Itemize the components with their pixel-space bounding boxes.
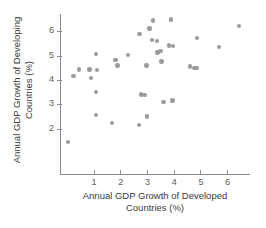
data-point	[194, 66, 198, 70]
data-point	[237, 24, 241, 28]
data-point	[158, 49, 162, 53]
data-point	[137, 32, 141, 36]
data-point	[155, 39, 159, 43]
data-point	[66, 140, 70, 144]
x-tick-mark	[227, 170, 228, 175]
y-tick-label: 3	[42, 98, 54, 108]
data-point	[77, 67, 81, 71]
data-point	[147, 26, 151, 30]
y-tick-label: 5	[42, 50, 54, 60]
x-tick-label: 3	[141, 177, 155, 187]
x-axis-title-line1: Annual GDP Growth of Developed	[48, 190, 262, 202]
data-point	[126, 53, 130, 57]
data-point	[195, 36, 199, 40]
data-point	[169, 17, 173, 21]
data-point	[110, 121, 114, 125]
y-axis-title-line2: Countries (%)	[23, 5, 35, 175]
x-tick-mark	[147, 170, 148, 175]
data-point	[144, 63, 148, 67]
data-point	[150, 38, 154, 42]
y-tick-mark	[57, 104, 62, 105]
x-tick-mark	[174, 170, 175, 175]
data-point	[170, 98, 174, 102]
y-axis-line	[60, 14, 61, 175]
y-tick-label: 6	[42, 25, 54, 35]
x-tick-label: 1	[87, 177, 101, 187]
data-point	[115, 63, 119, 67]
data-point	[94, 90, 98, 94]
y-axis-title-line1: Annual GDP Growth of Developing	[11, 5, 23, 175]
data-point	[171, 44, 175, 48]
x-tick-label: 5	[194, 177, 208, 187]
y-tick-mark	[57, 31, 62, 32]
y-tick-mark	[57, 56, 62, 57]
data-point	[71, 74, 75, 78]
data-point	[89, 76, 93, 80]
data-point	[217, 45, 221, 49]
x-tick-mark	[120, 170, 121, 175]
x-axis-line	[60, 174, 250, 175]
y-tick-label: 4	[42, 74, 54, 84]
x-axis-title: Annual GDP Growth of Developed Countries…	[48, 190, 262, 214]
x-tick-label: 4	[167, 177, 181, 187]
x-tick-mark	[94, 170, 95, 175]
y-tick-label: 2	[42, 123, 54, 133]
data-point	[137, 123, 141, 127]
data-point	[142, 93, 146, 97]
y-axis-title: Annual GDP Growth of Developing Countrie…	[11, 5, 35, 175]
y-tick-mark	[57, 80, 62, 81]
scatter-chart: 123456 23456 Annual GDP Growth of Develo…	[0, 0, 266, 228]
data-point	[161, 100, 165, 104]
x-tick-label: 2	[114, 177, 128, 187]
data-point	[94, 113, 98, 117]
x-axis-title-line2: Countries (%)	[48, 202, 262, 214]
data-point	[95, 68, 99, 72]
data-point	[151, 18, 155, 22]
x-tick-mark	[200, 170, 201, 175]
data-point	[145, 114, 149, 118]
data-point	[113, 58, 117, 62]
data-point	[159, 59, 163, 63]
data-point	[94, 52, 98, 56]
x-tick-label: 6	[221, 177, 235, 187]
data-point	[87, 67, 91, 71]
y-tick-mark	[57, 129, 62, 130]
